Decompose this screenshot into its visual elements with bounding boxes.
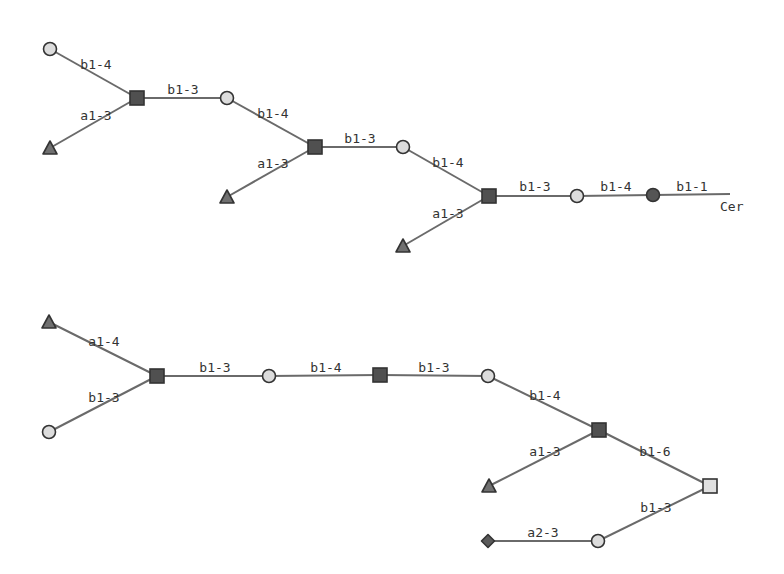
- linkage-labels-layer: b1-4a1-3b1-3b1-4a1-3b1-3b1-4a1-3b1-3b1-4…: [80, 57, 743, 540]
- gal-circle-icon: [43, 426, 56, 439]
- glcnac-square-icon: [592, 423, 606, 437]
- glycosidic-bond-line: [653, 194, 730, 195]
- aglycone-label: Cer: [720, 199, 744, 214]
- linkage-label: b1-3: [640, 500, 671, 515]
- glycosidic-bond-line: [50, 98, 137, 148]
- gal-circle-icon: [592, 535, 605, 548]
- glcnac-square-icon: [373, 368, 387, 382]
- linkage-label: b1-1: [676, 179, 707, 194]
- gal-circle-icon: [263, 370, 276, 383]
- glycan-diagram-canvas: b1-4a1-3b1-3b1-4a1-3b1-3b1-4a1-3b1-3b1-4…: [0, 0, 784, 574]
- fuc-triangle-icon: [43, 141, 57, 154]
- glycosidic-bond-line: [269, 375, 380, 376]
- fuc-triangle-icon: [42, 315, 56, 328]
- glycosidic-bond-line: [380, 375, 488, 376]
- glcnac-square-icon: [482, 189, 496, 203]
- fuc-triangle-icon: [482, 479, 496, 492]
- linkage-label: b1-4: [257, 106, 288, 121]
- glycosidic-bond-line: [488, 376, 599, 430]
- monosaccharide-nodes-layer: [42, 43, 717, 548]
- glycosidic-bond-line: [227, 147, 315, 197]
- gal-circle-icon: [397, 141, 410, 154]
- linkage-label: a1-3: [432, 206, 463, 221]
- edges-layer: [49, 49, 730, 541]
- linkage-label: b1-6: [639, 444, 670, 459]
- gal-circle-icon: [571, 190, 584, 203]
- glycosidic-bond-line: [577, 195, 653, 196]
- glcnac-square-icon: [308, 140, 322, 154]
- glc-circle-icon: [647, 189, 660, 202]
- linkage-label: b1-3: [167, 82, 198, 97]
- gal-circle-icon: [44, 43, 57, 56]
- galnac-square-icon: [703, 479, 717, 493]
- linkage-label: a1-3: [529, 444, 560, 459]
- linkage-label: b1-3: [519, 179, 550, 194]
- linkage-label: b1-3: [344, 131, 375, 146]
- linkage-label: b1-3: [88, 390, 119, 405]
- linkage-label: b1-4: [600, 179, 631, 194]
- glcnac-square-icon: [130, 91, 144, 105]
- glycosidic-bond-line: [403, 196, 489, 246]
- glycosidic-bond-line: [49, 322, 157, 376]
- linkage-label: b1-3: [199, 360, 230, 375]
- linkage-label: a1-3: [80, 108, 111, 123]
- linkage-label: b1-4: [80, 57, 111, 72]
- linkage-label: a2-3: [527, 525, 558, 540]
- linkage-label: a1-3: [257, 156, 288, 171]
- neuac-diamond-icon: [482, 535, 495, 548]
- glcnac-square-icon: [150, 369, 164, 383]
- fuc-triangle-icon: [220, 190, 234, 203]
- gal-circle-icon: [482, 370, 495, 383]
- fuc-triangle-icon: [396, 239, 410, 252]
- linkage-label: b1-4: [432, 155, 463, 170]
- linkage-label: b1-3: [418, 360, 449, 375]
- linkage-label: b1-4: [310, 360, 341, 375]
- linkage-label: b1-4: [529, 388, 560, 403]
- linkage-label: a1-4: [88, 334, 119, 349]
- gal-circle-icon: [221, 92, 234, 105]
